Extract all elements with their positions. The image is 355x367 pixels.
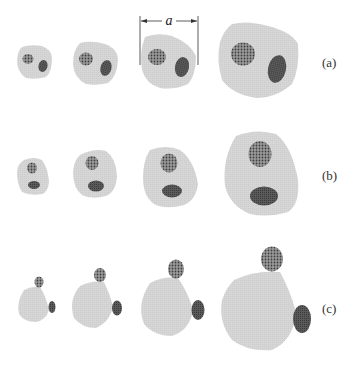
dimension-label: a: [166, 13, 173, 28]
stippled-inclusion: [35, 277, 44, 288]
body: [218, 22, 298, 98]
dark-inclusion: [112, 301, 122, 316]
stippled-inclusion: [79, 53, 93, 66]
stippled-inclusion: [27, 163, 37, 174]
stippled-inclusion: [86, 156, 99, 170]
stippled-inclusion: [249, 141, 272, 167]
body: [141, 278, 193, 336]
dark-inclusion: [28, 181, 40, 189]
particle-b1: [17, 158, 49, 195]
particle-a4: [218, 22, 298, 98]
body: [18, 287, 49, 322]
stippled-inclusion: [161, 154, 178, 173]
dark-inclusion: [49, 301, 56, 313]
stippled-inclusion: [23, 54, 34, 64]
row-c: (c): [18, 247, 336, 351]
row-label-a: (a): [322, 55, 336, 70]
arrow-right-icon: [191, 19, 197, 23]
dark-inclusion: [293, 305, 311, 333]
particle-b4: [224, 131, 298, 215]
dark-inclusion: [192, 300, 205, 320]
stippled-inclusion: [94, 268, 106, 282]
body: [73, 42, 118, 85]
particle-a2: [73, 42, 118, 85]
dark-inclusion: [250, 187, 278, 206]
row-b: (b): [17, 131, 337, 215]
row-a: a (a): [17, 13, 336, 98]
body: [72, 282, 113, 329]
particle-c1: [18, 277, 55, 323]
particle-c2: [72, 268, 122, 328]
stippled-inclusion: [261, 247, 283, 272]
particle-c4: [221, 247, 311, 351]
row-label-c: (c): [322, 301, 336, 316]
dark-inclusion: [88, 181, 104, 192]
arrow-left-icon: [141, 19, 147, 23]
particle-c3: [141, 260, 204, 337]
stippled-inclusion: [148, 49, 166, 65]
row-label-b: (b): [322, 168, 337, 183]
dark-inclusion: [162, 185, 182, 198]
particle-a3: [141, 34, 196, 88]
growth-figure: a (a) (b): [0, 0, 355, 367]
stippled-inclusion: [168, 260, 184, 279]
stippled-inclusion: [231, 43, 255, 66]
particle-b3: [143, 147, 198, 207]
particle-a1: [17, 45, 52, 79]
body: [221, 272, 296, 351]
particle-b2: [73, 150, 117, 198]
